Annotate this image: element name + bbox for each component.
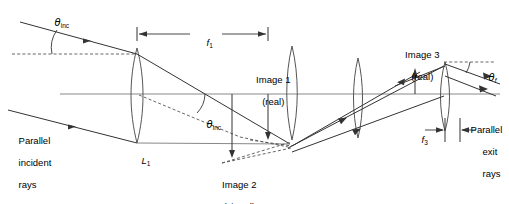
theta-inc-axis-label: θinc <box>196 108 221 144</box>
image3-label: Image 3 (real) <box>386 38 448 93</box>
image2-label: Image 2 (virtual) <box>198 168 270 204</box>
image1-label: Image 1 (real) <box>240 63 296 118</box>
theta-inc-top-label: θinc <box>44 6 69 42</box>
f1-label: f1 <box>196 26 213 62</box>
theta-f-label: θf <box>478 61 497 97</box>
lens1-label: L1 <box>131 144 150 180</box>
parallel-exit-rays-label: Parallel exit rays <box>460 113 502 190</box>
parallel-incident-rays-label: Parallel incident rays <box>8 124 51 201</box>
image2-arrow <box>229 94 235 158</box>
f3-label: f3 <box>411 123 428 159</box>
optics-ray-diagram-figure: θinc θinc θf f1 f3 L1 Image 1 (real) Ima… <box>0 0 509 204</box>
